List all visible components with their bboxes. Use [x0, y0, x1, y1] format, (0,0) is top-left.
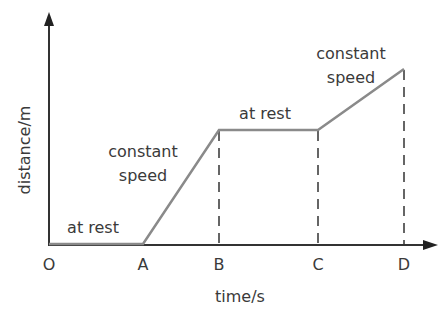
annotation-constant-speed-2-line2: speed	[327, 68, 375, 87]
annotation-constant-speed-2-line1: constant	[316, 44, 386, 63]
x-axis-title: time/s	[215, 287, 265, 306]
tick-label-o: O	[43, 255, 56, 274]
y-axis-title: distance/m	[15, 106, 34, 195]
tick-label-c: C	[312, 255, 323, 274]
tick-label-b: B	[214, 255, 225, 274]
annotation-constant-speed-1-line2: speed	[119, 166, 167, 185]
annotation-at-rest-1: at rest	[67, 218, 119, 237]
tick-label-a: A	[138, 255, 149, 274]
tick-label-d: D	[398, 255, 410, 274]
annotation-at-rest-2: at rest	[239, 104, 291, 123]
annotation-constant-speed-1-line1: constant	[108, 142, 178, 161]
x-axis-arrow-icon	[423, 240, 438, 250]
distance-time-graph: O A B C D time/s distance/m at rest cons…	[0, 0, 444, 324]
y-axis-arrow-icon	[44, 12, 54, 26]
